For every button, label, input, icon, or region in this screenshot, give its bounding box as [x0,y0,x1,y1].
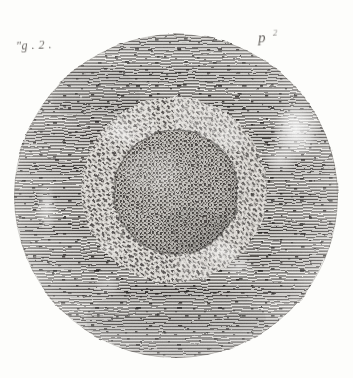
specimen-label-superscript: 2 [273,27,279,37]
figure-label: "g . 2 . [16,37,53,54]
specimen-label: p2 [258,27,279,46]
specimen-label-text: p [258,29,267,45]
plate-illustration [0,0,353,378]
engraved-plate: "g . 2 . p2 [0,0,353,378]
